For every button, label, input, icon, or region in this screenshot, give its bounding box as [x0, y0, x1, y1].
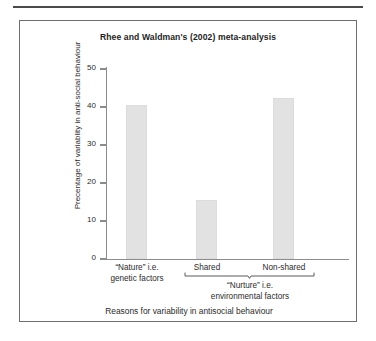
y-tick-0	[100, 258, 106, 259]
bar-shared[interactable]	[196, 200, 217, 259]
figure-container: Rhee and Waldman's (2002) meta-analysis …	[19, 20, 357, 322]
y-tick-label-0: 0	[72, 253, 96, 262]
y-tick-50	[100, 68, 106, 69]
y-tick-label-30: 30	[72, 139, 96, 148]
y-tick-label-50: 50	[72, 63, 96, 72]
y-tick-label-10: 10	[72, 215, 96, 224]
plot-area: Precentage of variablity in anti-social …	[20, 21, 358, 323]
bar-nature[interactable]	[126, 105, 147, 259]
group-label-line1: “Nurture” i.e.	[165, 280, 335, 291]
group-bracket-icon	[184, 272, 315, 279]
y-tick-10	[100, 220, 106, 221]
y-tick-30	[100, 144, 106, 145]
x-label-nature-line1: “Nature” i.e.	[91, 262, 183, 273]
y-tick-label-20: 20	[72, 177, 96, 186]
y-tick-20	[100, 182, 106, 183]
top-horizontal-rule	[13, 6, 363, 8]
y-axis-line	[106, 67, 107, 260]
group-label-nurture: “Nurture” i.e. environmental factors	[165, 280, 335, 302]
y-tick-40	[100, 106, 106, 107]
bar-non-shared[interactable]	[273, 98, 294, 260]
x-axis-title: Reasons for variability in antisocial be…	[30, 306, 348, 316]
y-tick-label-40: 40	[72, 101, 96, 110]
group-label-line2: environmental factors	[165, 291, 335, 302]
